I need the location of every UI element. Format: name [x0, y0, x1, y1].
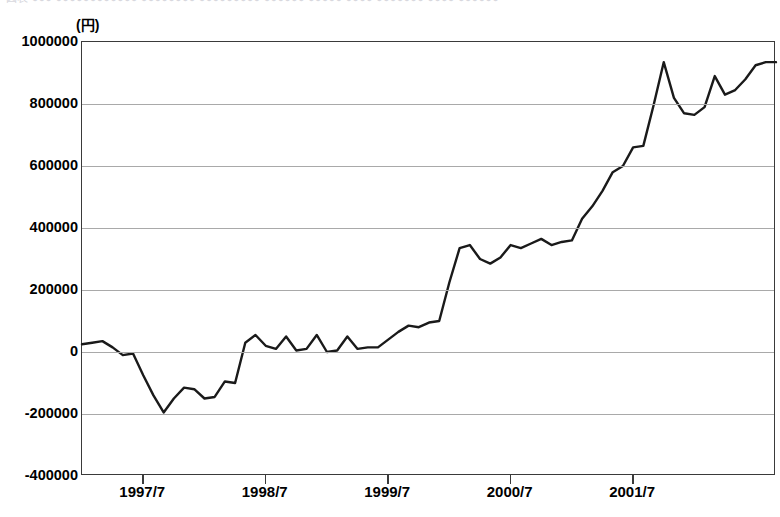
- x-tick-label: 1997/7: [119, 483, 165, 500]
- x-tick-label: 2001/7: [609, 483, 655, 500]
- x-tick-label: 2000/7: [487, 483, 533, 500]
- x-tick-label: 1998/7: [242, 483, 288, 500]
- chart-root: 図表 ●●● ●●●●●●●●●●●● ●●●●●●●● ●●●●●●●●● ●…: [0, 0, 780, 517]
- x-tick-label: 1999/7: [364, 483, 410, 500]
- x-axis-labels: 1997/71998/71999/72000/72001/7: [0, 0, 780, 517]
